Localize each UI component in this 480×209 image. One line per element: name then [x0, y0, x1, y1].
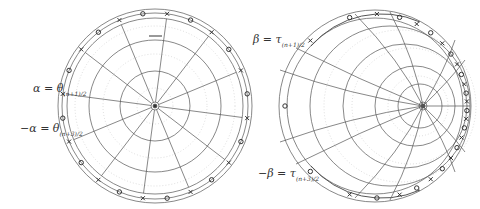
neg-alpha-label: −α = θ(n+3)/2: [20, 123, 83, 137]
figure: [0, 0, 480, 209]
left-polar-disk: [58, 9, 252, 203]
alpha-label: α = θ(n+1)/2: [33, 83, 87, 97]
beta-label: β = τ(n+1)/2: [253, 34, 305, 48]
neg-beta-label: −β = τ(n+3)/2: [258, 168, 319, 182]
